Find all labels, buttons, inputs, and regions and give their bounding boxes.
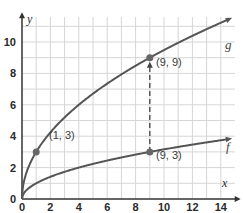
axes: [19, 12, 241, 202]
curves: [22, 18, 232, 199]
x-tick-label: 2: [47, 201, 53, 213]
x-tick-label: 6: [104, 201, 110, 213]
y-axis-label: y: [26, 12, 33, 26]
y-tick-label: 10: [4, 36, 16, 48]
data-point: [33, 148, 40, 155]
dashed-arrow-head-icon: [147, 62, 153, 68]
data-point: [146, 148, 153, 155]
y-tick-label: 0: [10, 193, 16, 205]
y-tick-label: 2: [10, 162, 16, 174]
x-tick-label: 14: [215, 201, 228, 213]
x-tick-label: 12: [186, 201, 198, 213]
point-label-9-3: (9, 3): [156, 149, 182, 161]
point-label-9-9: (9, 9): [156, 56, 182, 68]
function-graph: 024681012140246810 y x g f (1, 3) (9, 9)…: [0, 0, 243, 213]
y-tick-label: 4: [10, 130, 17, 142]
x-axis-arrow-icon: [235, 196, 241, 202]
curve-arrow-icon: [225, 18, 232, 23]
data-point: [146, 54, 153, 61]
tick-labels: 024681012140246810: [4, 36, 228, 213]
curve-label-g: g: [225, 37, 232, 52]
y-axis-arrow-icon: [19, 12, 25, 18]
y-tick-label: 6: [10, 99, 16, 111]
x-tick-label: 8: [133, 201, 139, 213]
x-tick-label: 10: [158, 201, 170, 213]
x-tick-label: 0: [19, 201, 25, 213]
point-label-1-3: (1, 3): [49, 129, 75, 141]
y-tick-label: 8: [10, 67, 16, 79]
curve-g: [22, 19, 229, 199]
x-tick-label: 4: [76, 201, 83, 213]
curve-f: [22, 139, 229, 199]
x-axis-label: x: [221, 176, 228, 190]
grid-lines: [22, 17, 235, 199]
